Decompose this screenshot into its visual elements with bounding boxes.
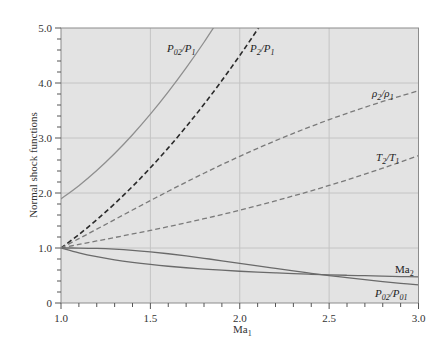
x-tick-label: 1.5 [144,312,158,324]
y-tick-label: 4.0 [38,77,52,89]
y-tick-label: 1.0 [38,242,52,254]
x-tick-label: 3.0 [412,312,426,324]
y-tick-label: 5.0 [38,22,52,34]
y-tick-label: 3.0 [38,132,52,144]
x-axis-title: Ma1 [233,323,252,338]
y-tick-label: 0 [47,297,53,309]
y-axis-title: Normal shock functions [27,112,39,218]
normal-shock-chart: 1.01.52.02.53.0 01.02.03.04.05.0 Normal … [0,0,444,355]
x-tick-label: 2.5 [322,312,336,324]
y-axis: 01.02.03.04.05.0 [38,22,61,309]
y-tick-label: 2.0 [38,187,52,199]
x-axis: 1.01.52.02.53.0 [54,303,426,324]
x-tick-label: 1.0 [54,312,68,324]
